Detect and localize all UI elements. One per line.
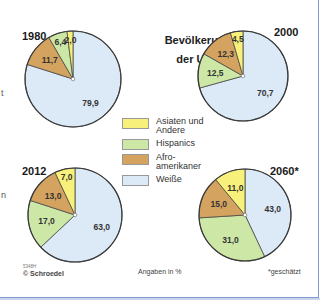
legend-label: Andere	[156, 126, 226, 135]
pie-slice-label: 11,0	[227, 183, 243, 193]
legend-label: Weiße	[156, 175, 226, 184]
legend-item-hispanics: Hispanics	[122, 138, 226, 150]
legend-swatch-hispanics	[122, 139, 149, 150]
pie-slice-label: 2,0	[65, 35, 77, 45]
legend-swatch-weisse	[122, 175, 149, 186]
pie-slice-label: 11,7	[42, 55, 58, 65]
legend-item-weisse: Weiße	[122, 174, 226, 186]
legend-item-afroamerikaner: Afro- amerikaner	[122, 153, 226, 171]
pie-chart-1980: 79,911,76,42,0	[25, 31, 121, 127]
pie-slice-label: 12,3	[217, 49, 234, 59]
legend-swatch-asiaten	[122, 118, 149, 129]
pie-slice-label: 15,0	[211, 199, 228, 209]
pie-slice-label: 4,5	[232, 34, 244, 44]
legend-label: Hispanics	[156, 139, 226, 148]
pie-slice-label: 13,0	[45, 191, 62, 201]
legend: Asiaten und Andere Hispanics Afro- ameri…	[122, 117, 226, 189]
estimate-note: *geschätzt	[268, 268, 301, 275]
pie-slice-label: 7,0	[61, 172, 73, 182]
pie-chart-2000: 70,712,512,34,5	[198, 31, 288, 121]
pie-slice-label: 17,0	[38, 216, 55, 226]
pie-slice-label: 31,0	[222, 235, 239, 245]
pie-slice-label: 70,7	[257, 88, 274, 98]
pie-slice-label: 63,0	[93, 222, 110, 232]
pie-slice-label: 43,0	[265, 204, 282, 214]
figure-code: 5348H	[23, 264, 36, 269]
unit-note: Angaben in %	[138, 268, 182, 275]
copyright: © Schroedel	[23, 270, 64, 277]
legend-item-asiaten: Asiaten und Andere	[122, 117, 226, 135]
legend-label: amerikaner	[156, 162, 226, 171]
pie-slice-label: 79,9	[82, 98, 99, 108]
pie-slice-label: 12,5	[207, 68, 224, 78]
pie-chart-2012: 63,017,013,07,0	[28, 168, 122, 262]
legend-swatch-afroamerikaner	[122, 154, 149, 165]
